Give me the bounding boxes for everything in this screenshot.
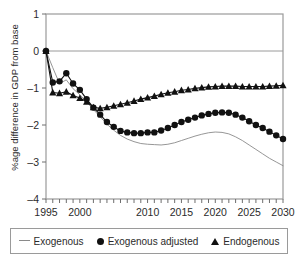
svg-text:1995: 1995 [34, 206, 58, 218]
line-marker-icon [19, 240, 30, 241]
svg-text:–3: –3 [27, 156, 39, 168]
svg-text:2020: 2020 [204, 206, 228, 218]
circle-marker-icon [97, 238, 104, 245]
svg-text:2000: 2000 [68, 206, 92, 218]
plot-container: %age difference in GDP from base 10–1–2–… [0, 0, 296, 218]
legend-label: Endogenous [223, 236, 279, 247]
svg-text:2010: 2010 [136, 206, 160, 218]
svg-text:–4: –4 [27, 193, 39, 205]
svg-text:2025: 2025 [237, 206, 261, 218]
chart-plot-area: 10–1–2–3–41995200020102015202020252030 [0, 0, 296, 218]
legend-item-endogenous: Endogenous [211, 236, 279, 247]
svg-text:–2: –2 [27, 119, 39, 131]
chart-figure: %age difference in GDP from base 10–1–2–… [0, 0, 296, 259]
triangle-marker-icon [211, 238, 219, 245]
legend-label: Exogenous [34, 236, 84, 247]
svg-text:0: 0 [33, 45, 39, 57]
legend-item-exogenous: Exogenous [19, 236, 84, 247]
legend-item-exogenous-adjusted: Exogenous adjusted [97, 236, 199, 247]
svg-text:2015: 2015 [170, 206, 194, 218]
svg-text:2030: 2030 [271, 206, 295, 218]
svg-text:–1: –1 [27, 82, 39, 94]
legend-label: Exogenous adjusted [108, 236, 199, 247]
chart-legend: Exogenous Exogenous adjusted Endogenous [10, 228, 288, 254]
svg-text:1: 1 [33, 8, 39, 20]
